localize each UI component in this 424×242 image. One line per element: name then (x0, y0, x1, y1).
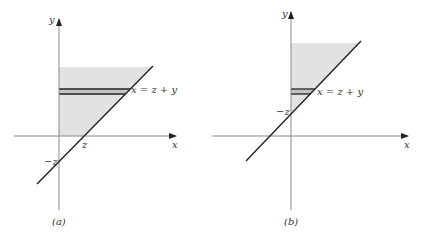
shaded-region-a (59, 67, 152, 136)
y-axis-label-b: y (281, 8, 288, 19)
integration-strip-a (59, 89, 130, 94)
line-label-b: x = z + y (317, 86, 363, 97)
x-intercept-label-a: z (81, 139, 88, 150)
y-intercept-label-b: −z (276, 106, 290, 117)
caption-b: (b) (284, 216, 298, 227)
x-axis-label-b: x (404, 139, 410, 150)
panel-b: y x x = z + y −z (b) (212, 8, 410, 227)
panel-a: y x x = z + y z −z (a) (14, 14, 178, 227)
caption-a: (a) (52, 216, 66, 227)
y-axis-label-a: y (48, 14, 55, 25)
line-label-a: x = z + y (131, 84, 177, 95)
diagram-canvas: y x x = z + y z −z (a) y x x = z + y −z … (0, 0, 424, 242)
y-intercept-label-a: −z (44, 156, 58, 167)
x-axis-label-a: x (172, 139, 178, 150)
